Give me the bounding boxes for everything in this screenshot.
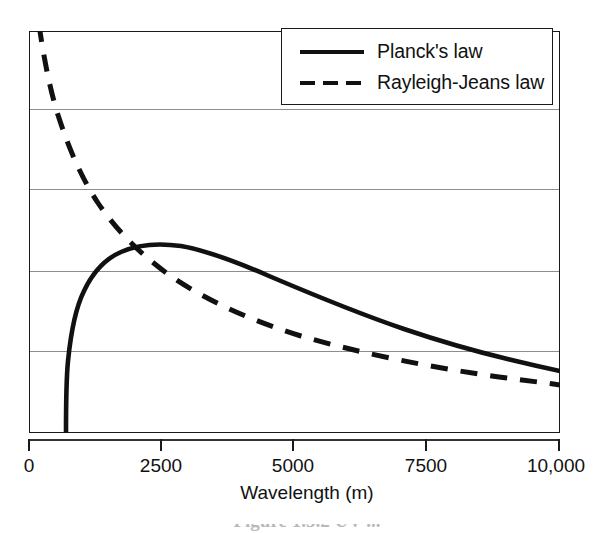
x-tick-7500 — [425, 439, 427, 451]
x-tick-10000 — [558, 439, 560, 451]
x-tick-5000 — [292, 439, 294, 451]
x-tick-label-5000: 5000 — [272, 455, 314, 477]
planck-curve — [66, 244, 560, 433]
dashed-line-sample — [299, 76, 365, 90]
solid-line-sample — [299, 45, 365, 59]
x-axis-title: Wavelength (m) — [0, 482, 614, 504]
legend-label-planck: Planck's law — [377, 42, 482, 62]
legend-label-rayleigh-jeans: Rayleigh-Jeans law — [377, 73, 544, 93]
x-tick-0 — [28, 439, 30, 451]
legend-item-planck: Planck's law — [282, 36, 552, 67]
x-tick-2500 — [160, 439, 162, 451]
figure-caption-text: Figure 1.5.2 UV ... — [0, 524, 614, 532]
x-tick-label-7500: 7500 — [405, 455, 447, 477]
legend: Planck's law Rayleigh-Jeans law — [281, 28, 553, 105]
x-axis-line — [28, 439, 560, 441]
x-tick-label-10000: 10,000 — [527, 455, 585, 477]
blackbody-radiation-figure: Planck's law Rayleigh-Jeans law 0 2500 5… — [0, 0, 614, 533]
figure-caption-cropped: Figure 1.5.2 UV ... — [0, 524, 614, 533]
x-tick-label-0: 0 — [24, 455, 35, 477]
legend-item-rayleigh-jeans: Rayleigh-Jeans law — [282, 67, 552, 98]
x-tick-label-2500: 2500 — [140, 455, 182, 477]
